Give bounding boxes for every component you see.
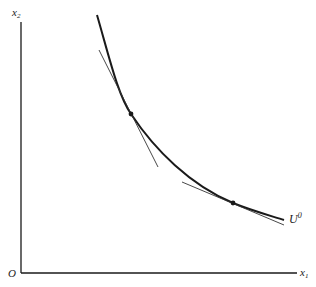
tangency-point-2 — [231, 201, 236, 206]
curve-label: U0 — [289, 211, 302, 226]
tangency-point-1 — [129, 112, 134, 117]
y-axis-label: x2 — [11, 6, 21, 20]
indifference-diagram: x2 x1 O U0 — [0, 0, 316, 287]
x-axis-label: x1 — [299, 266, 308, 280]
indifference-curve — [97, 15, 284, 220]
tangent-line-1 — [99, 50, 158, 167]
origin-label: O — [8, 267, 16, 279]
